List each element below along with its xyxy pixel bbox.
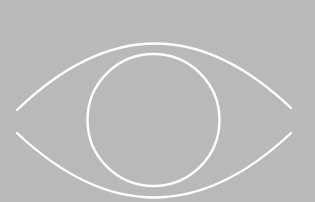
eye-illustration bbox=[0, 0, 315, 202]
eye-icon bbox=[0, 0, 315, 202]
background bbox=[0, 0, 315, 202]
